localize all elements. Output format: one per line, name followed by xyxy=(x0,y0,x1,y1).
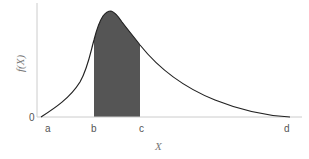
y-zero-label: 0 xyxy=(29,112,35,123)
x-tick-c: c xyxy=(139,123,144,134)
density-curve xyxy=(41,11,290,117)
y-axis-label: f(X) xyxy=(14,55,27,72)
shaded-area-b-to-c xyxy=(94,11,140,117)
x-tick-d: d xyxy=(284,123,290,134)
x-tick-a: a xyxy=(45,123,51,134)
x-tick-b: b xyxy=(91,123,97,134)
x-axis-label: X xyxy=(154,140,163,152)
density-diagram: 0 a b c d X f(X) xyxy=(0,0,309,159)
